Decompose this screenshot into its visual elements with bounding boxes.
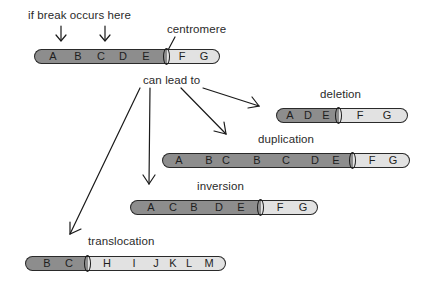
translocation-label: translocation <box>88 235 155 247</box>
gene-label: E <box>332 154 339 167</box>
chromosome-duplication: A B C B C D E F G <box>162 153 410 168</box>
arrow-to-inversion <box>143 88 155 184</box>
can-lead-to-label: can lead to <box>143 74 200 86</box>
chromosome-inversion: A C B D E F G <box>130 200 318 215</box>
gene-label: E <box>142 50 149 63</box>
chromosome-deletion: A D E F G <box>276 108 408 123</box>
gene-label: F <box>357 109 364 122</box>
centromere-icon <box>335 107 342 124</box>
gene-label: G <box>299 201 308 214</box>
centromere-icon <box>163 48 170 65</box>
centromere-icon <box>84 255 91 272</box>
gene-label: G <box>200 50 209 63</box>
gene-label: G <box>383 109 392 122</box>
gene-label: G <box>389 154 398 167</box>
gene-label: B <box>43 257 50 270</box>
gene-label: C <box>169 201 177 214</box>
gene-label: E <box>237 201 244 214</box>
gene-label: A <box>147 201 154 214</box>
arrows-layer <box>0 0 431 288</box>
right-arm <box>261 200 318 215</box>
right-arm <box>353 153 410 168</box>
gene-label: A <box>286 109 293 122</box>
gene-label: D <box>119 50 127 63</box>
duplication-label: duplication <box>258 133 314 145</box>
gene-label: C <box>282 154 290 167</box>
chromosome-original: A B C D E F G <box>34 49 220 64</box>
gene-label: F <box>369 154 376 167</box>
gene-label: E <box>322 109 329 122</box>
right-arm <box>167 49 220 64</box>
break-note: if break occurs here <box>28 9 131 21</box>
gene-label: A <box>175 154 182 167</box>
gene-label: K <box>169 257 176 270</box>
break-arrow-b <box>56 26 66 41</box>
centromere-icon <box>257 199 264 216</box>
gene-label: C <box>222 154 230 167</box>
gene-label: J <box>153 257 159 270</box>
break-arrow-c <box>100 26 110 41</box>
right-arm <box>339 108 408 123</box>
gene-label: H <box>103 257 111 270</box>
gene-label: B <box>253 154 260 167</box>
gene-label: D <box>311 154 319 167</box>
centromere-icon <box>349 152 356 169</box>
inversion-label: inversion <box>197 180 244 192</box>
gene-label: B <box>74 50 81 63</box>
gene-label: B <box>205 154 212 167</box>
gene-label: B <box>190 201 197 214</box>
gene-label: M <box>204 257 213 270</box>
gene-label: L <box>186 257 192 270</box>
gene-label: I <box>132 257 135 270</box>
chromosome-translocation: B C H I J K L M <box>25 256 226 271</box>
left-arm <box>25 256 88 271</box>
gene-label: A <box>49 50 56 63</box>
gene-label: D <box>215 201 223 214</box>
arrow-to-deletion <box>203 88 259 108</box>
gene-label: D <box>304 109 312 122</box>
gene-label: F <box>179 50 186 63</box>
deletion-label: deletion <box>320 88 361 100</box>
gene-label: C <box>65 257 73 270</box>
centromere-label: centromere <box>167 23 226 35</box>
arrow-to-duplication <box>181 88 226 134</box>
gene-label: C <box>97 50 105 63</box>
gene-label: F <box>277 201 284 214</box>
